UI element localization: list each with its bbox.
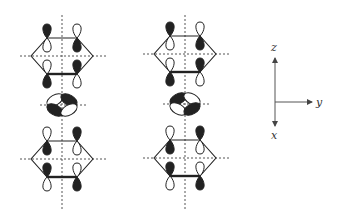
y-axis-label: y (315, 96, 323, 109)
x-axis-label: x (271, 129, 278, 142)
coordinate-axes: z y x (0, 0, 341, 215)
z-axis-label: z (270, 41, 277, 54)
orbital-diagram: z y x (0, 0, 341, 215)
